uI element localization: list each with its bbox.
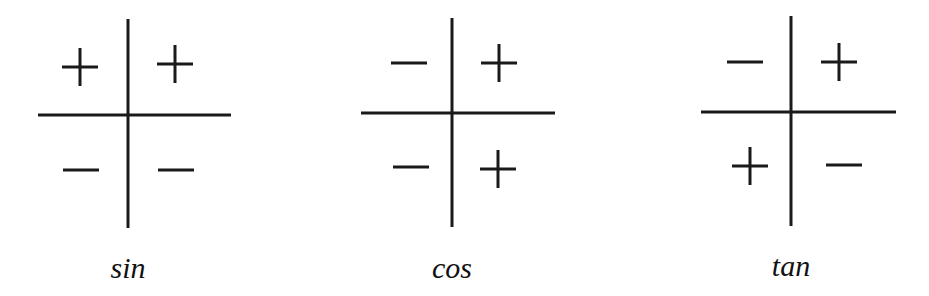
diagram-tan: tan xyxy=(701,16,896,282)
function-label-cos: cos xyxy=(432,251,472,284)
diagram-sin: sin xyxy=(38,19,231,284)
plus-sign-bottom-left xyxy=(732,147,768,185)
plus-sign-top-left xyxy=(62,48,98,86)
plus-sign-bottom-right xyxy=(480,150,516,188)
diagram-cos: cos xyxy=(361,18,555,284)
function-label-tan: tan xyxy=(772,249,810,282)
plus-sign-top-right xyxy=(157,45,193,83)
plus-sign-top-right xyxy=(821,43,857,81)
trig-sign-diagrams: sincostan xyxy=(0,0,929,296)
function-label-sin: sin xyxy=(110,251,145,284)
plus-sign-top-right xyxy=(481,44,517,82)
